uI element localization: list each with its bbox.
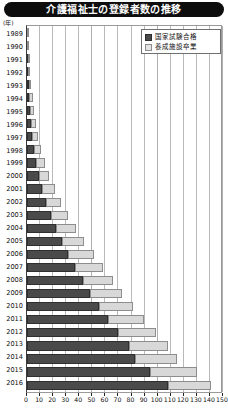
- bar-row: [27, 132, 223, 141]
- year-label-2016: 2016: [6, 380, 23, 387]
- bar-segment: [75, 263, 103, 272]
- bar-row: [27, 237, 223, 246]
- bar-row: [27, 184, 223, 193]
- bar-segment: [27, 28, 29, 37]
- bar-segment: [118, 328, 156, 337]
- legend-swatch-school-icon: [145, 44, 152, 51]
- x-tick-label-60: 60: [100, 397, 108, 403]
- x-tick-label-30: 30: [61, 397, 69, 403]
- bar-segment: [51, 211, 69, 220]
- chart-legend: 国家試験合格 養成施設卒業: [141, 29, 221, 54]
- bar-row: [27, 367, 223, 376]
- x-axis: 0102030405060708090100110120130140150: [26, 393, 222, 409]
- bar-segment: [28, 67, 30, 76]
- bar-segment: [129, 341, 168, 350]
- bar-segment: [30, 106, 34, 115]
- x-tick-label-20: 20: [48, 397, 56, 403]
- x-tick-label-140: 140: [203, 397, 215, 403]
- chart-title-banner: 介護福祉士の登録者数の推移: [4, 2, 224, 17]
- year-label-2004: 2004: [6, 225, 23, 232]
- bar-segment: [27, 289, 90, 298]
- year-label-2006: 2006: [6, 251, 23, 258]
- bar-segment: [150, 367, 197, 376]
- year-label-2000: 2000: [6, 173, 23, 180]
- year-label-1992: 1992: [6, 70, 23, 77]
- year-label-2008: 2008: [6, 277, 23, 284]
- bar-segment: [27, 367, 150, 376]
- bar-segment: [83, 276, 113, 285]
- bar-segment: [168, 381, 211, 390]
- chart-page: 介護福祉士の登録者数の推移 (年) 1989199019911992199319…: [0, 0, 228, 409]
- bar-segment: [46, 198, 61, 207]
- bar-row: [27, 315, 223, 324]
- year-label-1997: 1997: [6, 135, 23, 142]
- year-label-2011: 2011: [6, 316, 23, 323]
- year-label-2001: 2001: [6, 186, 23, 193]
- x-tick-label-110: 110: [164, 397, 176, 403]
- bar-segment: [27, 237, 62, 246]
- year-label-1991: 1991: [6, 57, 23, 64]
- bar-row: [27, 145, 223, 154]
- x-tick-label-120: 120: [177, 397, 189, 403]
- bar-segment: [28, 54, 30, 63]
- bar-row: [27, 341, 223, 350]
- bar-segment: [27, 354, 135, 363]
- year-label-2012: 2012: [6, 329, 23, 336]
- bar-segment: [56, 224, 76, 233]
- bar-row: [27, 263, 223, 272]
- x-tick-label-0: 0: [24, 397, 28, 403]
- bar-segment: [27, 41, 29, 50]
- bar-segment: [27, 250, 68, 259]
- year-label-1993: 1993: [6, 83, 23, 90]
- bar-segment: [108, 315, 144, 324]
- bar-segment: [27, 158, 36, 167]
- bar-segment: [68, 250, 93, 259]
- bar-segment: [32, 132, 38, 141]
- bar-row: [27, 250, 223, 259]
- year-label-2014: 2014: [6, 354, 23, 361]
- bar-segment: [27, 224, 56, 233]
- bar-segment: [42, 184, 55, 193]
- year-label-2015: 2015: [6, 367, 23, 374]
- bar-row: [27, 80, 223, 89]
- x-tick-label-10: 10: [35, 397, 43, 403]
- bar-row: [27, 198, 223, 207]
- bar-segment: [27, 276, 83, 285]
- bar-row: [27, 67, 223, 76]
- bar-segment: [29, 93, 32, 102]
- year-label-2010: 2010: [6, 303, 23, 310]
- x-tick-label-90: 90: [140, 397, 148, 403]
- bar-row: [27, 381, 223, 390]
- bar-segment: [27, 171, 39, 180]
- bar-segment: [99, 302, 133, 311]
- bar-segment: [90, 289, 122, 298]
- bar-segment: [31, 119, 36, 128]
- legend-item-school: 養成施設卒業: [145, 42, 217, 52]
- year-axis-labels: 1989199019911992199319941995199619971998…: [0, 28, 25, 390]
- year-label-2002: 2002: [6, 199, 23, 206]
- bar-segment: [27, 328, 118, 337]
- year-label-1994: 1994: [6, 96, 23, 103]
- bar-series-container: [27, 26, 222, 392]
- bar-row: [27, 302, 223, 311]
- year-label-1999: 1999: [6, 160, 23, 167]
- x-tick-label-150: 150: [216, 397, 228, 403]
- bar-segment: [34, 145, 41, 154]
- bar-row: [27, 289, 223, 298]
- page-title: 介護福祉士の登録者数の推移: [46, 5, 181, 15]
- year-label-1996: 1996: [6, 122, 23, 129]
- bar-segment: [62, 237, 85, 246]
- year-label-2013: 2013: [6, 341, 23, 348]
- bar-segment: [135, 354, 177, 363]
- legend-swatch-exam-icon: [145, 34, 152, 41]
- bar-row: [27, 171, 223, 180]
- legend-label-school: 養成施設卒業: [155, 44, 197, 51]
- year-label-1990: 1990: [6, 44, 23, 51]
- bar-segment: [27, 315, 108, 324]
- bar-row: [27, 211, 223, 220]
- bar-segment: [29, 80, 32, 89]
- bar-segment: [36, 158, 45, 167]
- x-tick-label-130: 130: [190, 397, 202, 403]
- bar-row: [27, 224, 223, 233]
- x-tick-label-40: 40: [74, 397, 82, 403]
